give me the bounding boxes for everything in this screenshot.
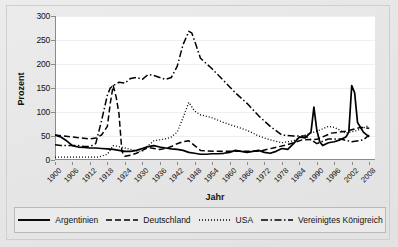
y-axis-title: Prozent bbox=[16, 34, 26, 144]
series-line-argentinien bbox=[55, 86, 369, 155]
x-tick-mark bbox=[299, 162, 300, 165]
chart-figure: Prozent 050100150200250300 1900190619121… bbox=[0, 0, 398, 247]
x-tick-mark bbox=[72, 162, 73, 165]
x-tick-mark bbox=[107, 162, 108, 165]
x-axis-title: Jahr bbox=[55, 192, 375, 202]
legend-label: Argentinien bbox=[55, 215, 98, 225]
legend-item-vereinigtes-k-nigreich[interactable]: Vereinigtes Königreich bbox=[260, 215, 383, 225]
x-tick-mark bbox=[369, 162, 370, 165]
x-tick-mark bbox=[230, 162, 231, 165]
x-tick-mark bbox=[142, 162, 143, 165]
x-tick-mark bbox=[282, 162, 283, 165]
x-tick-mark bbox=[212, 162, 213, 165]
x-tick-mark bbox=[125, 162, 126, 165]
x-tick-mark bbox=[264, 162, 265, 165]
chart-legend: ArgentinienDeutschlandUSAVereinigtes Kön… bbox=[14, 207, 386, 233]
legend-swatch-dashdot bbox=[260, 216, 294, 224]
series-lines bbox=[55, 16, 375, 160]
plot-wrapper bbox=[55, 16, 375, 160]
y-axis-title-holder: Prozent bbox=[14, 36, 28, 146]
legend-label: USA bbox=[236, 215, 253, 225]
x-tick-mark bbox=[160, 162, 161, 165]
legend-item-argentinien[interactable]: Argentinien bbox=[17, 215, 98, 225]
x-tick-mark bbox=[177, 162, 178, 165]
legend-label: Vereinigtes Königreich bbox=[298, 215, 383, 225]
x-tick-mark bbox=[352, 162, 353, 165]
legend-label: Deutschland bbox=[143, 215, 190, 225]
x-tick-mark bbox=[195, 162, 196, 165]
legend-swatch-dotted bbox=[198, 216, 232, 224]
x-tick-mark bbox=[90, 162, 91, 165]
legend-item-usa[interactable]: USA bbox=[198, 215, 253, 225]
legend-item-deutschland[interactable]: Deutschland bbox=[105, 215, 190, 225]
x-tick-mark bbox=[317, 162, 318, 165]
legend-swatch-solid bbox=[17, 216, 51, 224]
legend-swatch-dashed bbox=[105, 216, 139, 224]
x-tick-mark bbox=[247, 162, 248, 165]
x-tick-mark bbox=[334, 162, 335, 165]
x-tick-mark bbox=[55, 162, 56, 165]
